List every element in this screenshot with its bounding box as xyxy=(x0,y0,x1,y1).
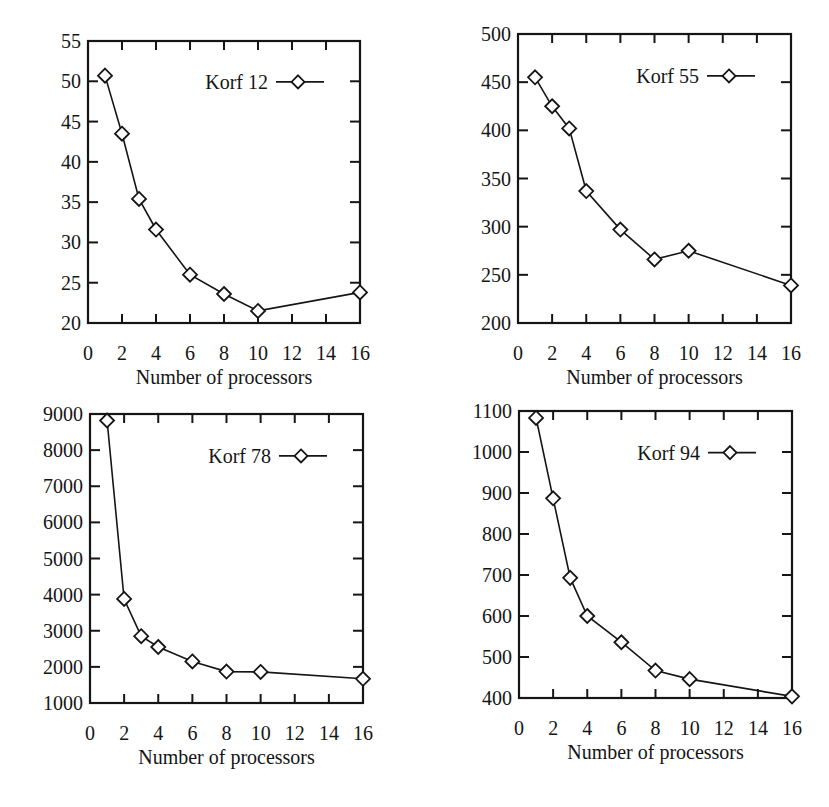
diamond-marker-icon xyxy=(132,192,146,206)
x-tick-label: 0 xyxy=(85,722,95,744)
legend: Korf 94 xyxy=(637,442,756,464)
diamond-marker-icon xyxy=(545,99,559,113)
x-tick-label: 8 xyxy=(222,722,232,744)
y-tick-label: 1000 xyxy=(43,692,83,714)
diamond-marker-icon xyxy=(117,592,131,606)
x-tick-label: 16 xyxy=(353,722,373,744)
diamond-marker-icon xyxy=(356,672,370,686)
y-tick-label: 8000 xyxy=(43,439,83,461)
legend-label: Korf 55 xyxy=(636,65,699,87)
y-tick-label: 9000 xyxy=(43,403,83,425)
diamond-marker-icon xyxy=(724,446,737,459)
x-tick-label: 6 xyxy=(185,342,195,364)
x-tick-label: 16 xyxy=(782,717,802,739)
diamond-marker-icon xyxy=(528,70,542,84)
diamond-marker-icon xyxy=(134,629,148,643)
diamond-marker-icon xyxy=(683,672,697,686)
diamond-marker-icon xyxy=(217,287,231,301)
figure-canvas: 02468101214162025303540455055Number of p… xyxy=(0,0,829,807)
y-tick-label: 450 xyxy=(481,71,511,93)
diamond-marker-icon xyxy=(183,268,197,282)
series-line xyxy=(535,77,791,285)
x-tick-label: 4 xyxy=(581,342,591,364)
x-tick-label: 4 xyxy=(582,717,592,739)
x-axis-label: Number of processors xyxy=(136,366,313,389)
legend-label: Korf 78 xyxy=(208,445,271,467)
y-tick-label: 500 xyxy=(482,646,512,668)
x-tick-label: 10 xyxy=(251,722,271,744)
legend-label: Korf 94 xyxy=(637,442,700,464)
diamond-marker-icon xyxy=(254,665,268,679)
x-tick-label: 0 xyxy=(513,342,523,364)
y-tick-label: 55 xyxy=(61,30,81,52)
y-tick-label: 50 xyxy=(61,70,81,92)
y-tick-label: 20 xyxy=(61,312,81,334)
x-tick-label: 16 xyxy=(781,342,801,364)
y-tick-label: 800 xyxy=(482,523,512,545)
x-axis-label: Number of processors xyxy=(567,741,744,764)
x-tick-label: 10 xyxy=(680,717,700,739)
x-tick-label: 14 xyxy=(748,717,768,739)
diamond-marker-icon xyxy=(353,285,367,299)
y-tick-label: 250 xyxy=(481,264,511,286)
x-tick-label: 4 xyxy=(151,342,161,364)
diamond-marker-icon xyxy=(115,127,129,141)
diamond-marker-icon xyxy=(251,304,265,318)
y-tick-label: 1000 xyxy=(472,441,512,463)
chart-korf-12: 02468101214162025303540455055Number of p… xyxy=(61,30,370,389)
x-tick-label: 12 xyxy=(282,342,302,364)
diamond-marker-icon xyxy=(682,244,696,258)
x-axis-label: Number of processors xyxy=(566,366,743,389)
x-tick-label: 2 xyxy=(117,342,127,364)
diamond-marker-icon xyxy=(784,278,798,292)
x-tick-label: 12 xyxy=(714,717,734,739)
diamond-marker-icon xyxy=(723,69,736,82)
y-tick-label: 600 xyxy=(482,605,512,627)
legend: Korf 12 xyxy=(205,71,324,93)
legend: Korf 55 xyxy=(636,65,755,87)
chart-korf-94: 024681012141640050060070080090010001100N… xyxy=(472,400,802,764)
x-tick-label: 16 xyxy=(350,342,370,364)
legend-label: Korf 12 xyxy=(205,71,268,93)
x-tick-label: 6 xyxy=(187,722,197,744)
x-axis-label: Number of processors xyxy=(138,746,315,769)
chart-korf-78: 0246810121416100020003000400050006000700… xyxy=(43,403,373,769)
series-line xyxy=(105,76,360,311)
x-tick-label: 14 xyxy=(316,342,336,364)
y-tick-label: 35 xyxy=(61,191,81,213)
y-tick-label: 500 xyxy=(481,23,511,45)
x-tick-label: 2 xyxy=(119,722,129,744)
chart-korf-55: 0246810121416200250300350400450500Number… xyxy=(481,23,801,389)
x-tick-label: 12 xyxy=(285,722,305,744)
y-tick-label: 7000 xyxy=(43,475,83,497)
diamond-marker-icon xyxy=(529,411,543,425)
y-tick-label: 400 xyxy=(481,119,511,141)
y-tick-label: 6000 xyxy=(43,511,83,533)
diamond-marker-icon xyxy=(295,449,308,462)
diamond-marker-icon xyxy=(151,640,165,654)
y-tick-label: 2000 xyxy=(43,656,83,678)
y-tick-label: 900 xyxy=(482,482,512,504)
x-tick-label: 8 xyxy=(650,342,660,364)
y-tick-label: 1100 xyxy=(473,400,512,422)
diamond-marker-icon xyxy=(98,69,112,83)
diamond-marker-icon xyxy=(785,689,799,703)
y-tick-label: 300 xyxy=(481,216,511,238)
x-tick-label: 6 xyxy=(615,342,625,364)
x-tick-label: 2 xyxy=(547,342,557,364)
diamond-marker-icon xyxy=(563,571,577,585)
diamond-marker-icon xyxy=(292,75,305,88)
y-tick-label: 40 xyxy=(61,151,81,173)
y-tick-label: 5000 xyxy=(43,548,83,570)
y-tick-label: 200 xyxy=(481,312,511,334)
x-tick-label: 0 xyxy=(83,342,93,364)
x-tick-label: 8 xyxy=(219,342,229,364)
x-tick-label: 10 xyxy=(248,342,268,364)
y-tick-label: 4000 xyxy=(43,584,83,606)
x-tick-label: 6 xyxy=(616,717,626,739)
x-tick-label: 12 xyxy=(713,342,733,364)
diamond-marker-icon xyxy=(100,414,114,428)
y-tick-label: 30 xyxy=(61,231,81,253)
diamond-marker-icon xyxy=(546,491,560,505)
legend: Korf 78 xyxy=(208,445,327,467)
